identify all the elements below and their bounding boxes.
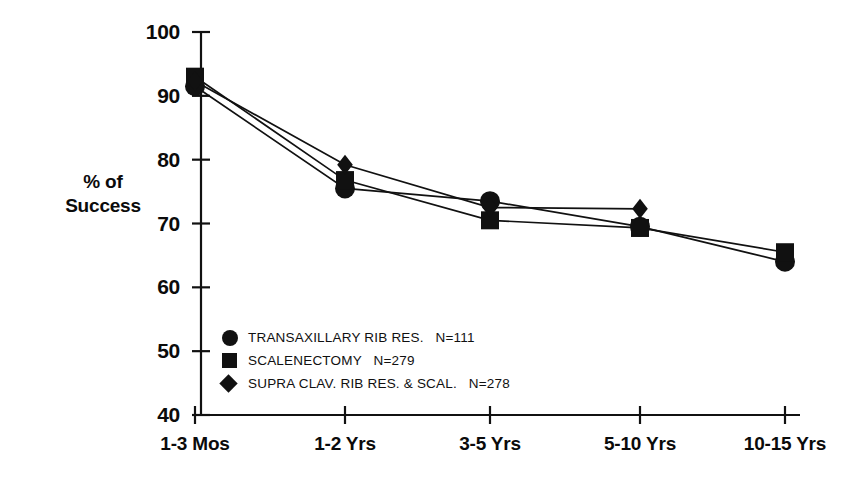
- legend-item-label: SCALENECTOMY N=279: [248, 353, 415, 368]
- legend-item: SUPRA CLAV. RIB RES. & SCAL. N=278: [222, 372, 510, 395]
- chart-container: 405060708090100 1-3 Mos1-2 Yrs3-5 Yrs5-1…: [0, 0, 842, 490]
- diamond-marker: [222, 372, 248, 395]
- x-tick-label: 5-10 Yrs: [565, 433, 715, 455]
- x-tick-label: 3-5 Yrs: [415, 433, 565, 455]
- y-tick-label: 50: [118, 340, 180, 361]
- x-tick-label: 10-15 Yrs: [710, 433, 842, 455]
- square-marker: [776, 243, 794, 261]
- series-line-circle: [195, 86, 785, 262]
- diamond-marker: [632, 199, 648, 219]
- legend-item-label: SUPRA CLAV. RIB RES. & SCAL. N=278: [248, 376, 510, 391]
- x-tick-label: 1-2 Yrs: [270, 433, 420, 455]
- chart-legend: TRANSAXILLARY RIB RES. N=111SCALENECTOMY…: [222, 326, 510, 395]
- legend-item-label: TRANSAXILLARY RIB RES. N=111: [248, 330, 475, 345]
- series-line-diamond: [195, 81, 640, 209]
- legend-item: SCALENECTOMY N=279: [222, 349, 510, 372]
- square-marker: [631, 219, 649, 237]
- y-tick-label: 80: [118, 149, 180, 170]
- y-axis-title-line-2: Success: [38, 194, 168, 218]
- y-axis-title-line-1: % of: [38, 170, 168, 194]
- x-tick-label: 1-3 Mos: [120, 433, 270, 455]
- y-tick-label: 90: [118, 85, 180, 106]
- y-tick-label: 40: [118, 404, 180, 425]
- y-tick-label: 100: [118, 21, 180, 42]
- y-axis-title: % of Success: [38, 170, 168, 218]
- circle-marker: [222, 326, 248, 349]
- chart-series-group: [185, 68, 795, 272]
- square-marker: [222, 349, 248, 372]
- y-tick-label: 60: [118, 276, 180, 297]
- legend-item: TRANSAXILLARY RIB RES. N=111: [222, 326, 510, 349]
